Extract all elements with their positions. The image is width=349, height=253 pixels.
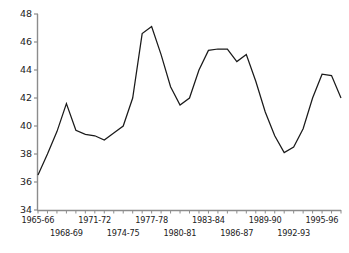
x-axis-tick-label: 1968-69 <box>50 228 83 238</box>
x-axis-tick-label: 1986-87 <box>220 228 253 238</box>
data-series-line <box>38 27 341 175</box>
line-chart: 3436384042444648 1965-661971-721977-7819… <box>0 0 349 253</box>
x-axis-tick-label: 1980-81 <box>164 228 197 238</box>
x-axis-tick-label: 1983-84 <box>192 215 225 225</box>
y-axis-tick-label: 40 <box>12 120 32 131</box>
y-axis-tick-label: 44 <box>12 64 32 75</box>
x-axis-tick-label: 1992-93 <box>277 228 310 238</box>
x-axis-tick-label: 1965-66 <box>22 215 55 225</box>
y-axis-tick-label: 46 <box>12 36 32 47</box>
x-axis-tick-label: 1977-78 <box>135 215 168 225</box>
x-axis-tick-label: 1995-96 <box>306 215 339 225</box>
x-axis-tick-label: 1971-72 <box>78 215 111 225</box>
x-axis-tick-label: 1989-90 <box>249 215 282 225</box>
y-axis-tick-label: 36 <box>12 176 32 187</box>
y-axis-tick-label: 38 <box>12 148 32 159</box>
y-axis-tick-label: 48 <box>12 8 32 19</box>
x-axis-tick-label: 1974-75 <box>107 228 140 238</box>
y-axis-tick-label: 42 <box>12 92 32 103</box>
y-axis-tick-label: 34 <box>12 204 32 215</box>
